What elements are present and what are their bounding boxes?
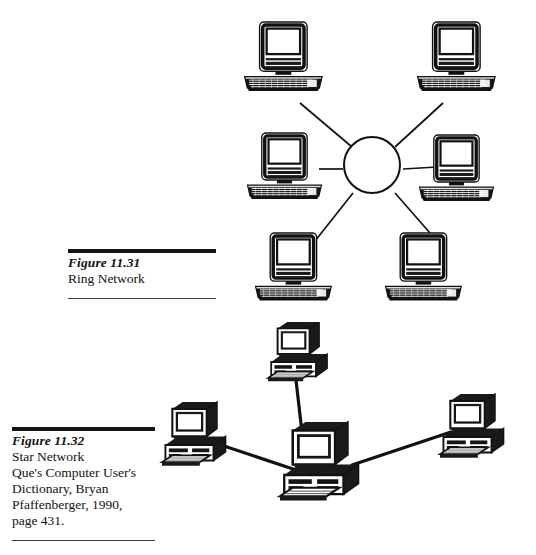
workstation-bottom-left	[256, 233, 332, 301]
figure-page: Figure 11.31 Ring Network	[0, 0, 536, 555]
workstation-right	[440, 394, 504, 458]
workstation-bottom-right	[386, 233, 462, 301]
workstation-top-left	[245, 22, 322, 91]
link-left-to-server	[218, 444, 296, 470]
figure-title: Star Network	[12, 449, 155, 465]
link-middle-right-to-hub	[403, 167, 437, 169]
figure-number: Figure 11.31	[68, 255, 216, 271]
figure-source-line-3: Pfaffenberger, 1990,	[12, 497, 155, 513]
figure-source-line-1: Que's Computer User's	[12, 465, 155, 481]
caption-rule-thin	[68, 298, 216, 299]
server-center	[280, 422, 358, 500]
network-hub-circle	[344, 137, 400, 193]
workstation-middle-left	[248, 133, 322, 199]
figure-source-line-4: page 431.	[12, 513, 155, 529]
caption-text-body: Figure 11.32 Star Network Que's Computer…	[12, 433, 155, 532]
caption-rule-thick	[68, 249, 216, 253]
workstation-top-right	[418, 22, 495, 91]
star-network-diagram	[156, 322, 536, 552]
figure-title: Ring Network	[68, 271, 216, 287]
figure-caption-star-network: Figure 11.32 Star Network Que's Computer…	[12, 427, 155, 541]
ring-network-diagram	[215, 15, 535, 315]
workstation-top	[268, 322, 327, 381]
link-bottom-left-to-hub	[315, 193, 353, 241]
caption-rule-thick	[12, 427, 155, 431]
figure-number: Figure 11.32	[12, 433, 155, 449]
caption-text-body: Figure 11.31 Ring Network	[68, 255, 216, 290]
figure-source-line-2: Dictionary, Bryan	[12, 481, 155, 497]
caption-rule-thin	[12, 540, 155, 541]
figure-caption-ring-network: Figure 11.31 Ring Network	[68, 249, 216, 299]
link-right-to-server	[352, 432, 451, 465]
workstation-left	[162, 402, 226, 466]
